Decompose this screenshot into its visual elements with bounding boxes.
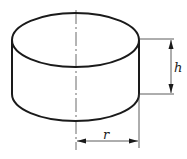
arrow-up-icon: [169, 40, 174, 49]
arrow-left-icon: [77, 139, 86, 144]
top-ellipse: [12, 13, 139, 67]
height-label: h: [174, 60, 182, 75]
bottom-front-arc: [12, 94, 139, 121]
cylinder-diagram: h r: [0, 0, 187, 159]
arrow-right-icon: [129, 139, 138, 144]
radius-label: r: [103, 127, 110, 142]
arrow-down-icon: [169, 84, 174, 93]
height-dimension: [139, 39, 174, 94]
